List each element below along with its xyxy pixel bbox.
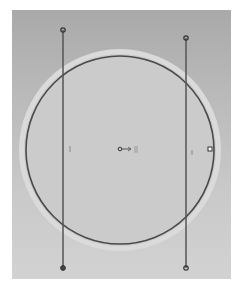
diagram-canvas	[0, 0, 239, 290]
circle-edge-handle[interactable]	[208, 147, 212, 151]
left-guide-bottom-handle[interactable]	[61, 266, 66, 271]
circle-disc	[24, 54, 216, 246]
